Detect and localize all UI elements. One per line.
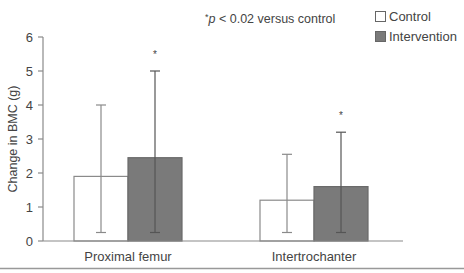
y-axis-label: Change in BMC (g) <box>6 86 20 193</box>
legend: ControlIntervention <box>376 9 457 44</box>
legend-label-control: Control <box>389 9 431 24</box>
legend-swatch-intervention <box>376 32 386 42</box>
y-tick-label: 4 <box>26 98 33 113</box>
significance-marker: * <box>339 110 343 121</box>
y-tick-label: 2 <box>26 166 33 181</box>
legend-label-intervention: Intervention <box>389 29 457 44</box>
legend-swatch-control <box>376 12 386 22</box>
y-tick-label: 6 <box>26 30 33 45</box>
y-tick-label: 3 <box>26 132 33 147</box>
significance-note: *p < 0.02 versus control <box>205 12 335 26</box>
bar-chart: 0123456Change in BMC (g)*Proximal femur*… <box>0 0 464 273</box>
y-tick-label: 1 <box>26 200 33 215</box>
significance-marker: * <box>153 49 157 60</box>
y-tick-label: 5 <box>26 64 33 79</box>
x-category-label: Intertrochanter <box>272 249 357 264</box>
x-category-label: Proximal femur <box>84 249 172 264</box>
y-tick-label: 0 <box>26 234 33 249</box>
